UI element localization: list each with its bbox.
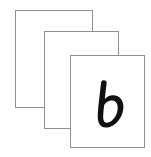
letter-b-glyph: b (92, 79, 126, 129)
flashcard-stack: b (0, 0, 151, 157)
flashcard-front[interactable]: b (70, 55, 145, 148)
